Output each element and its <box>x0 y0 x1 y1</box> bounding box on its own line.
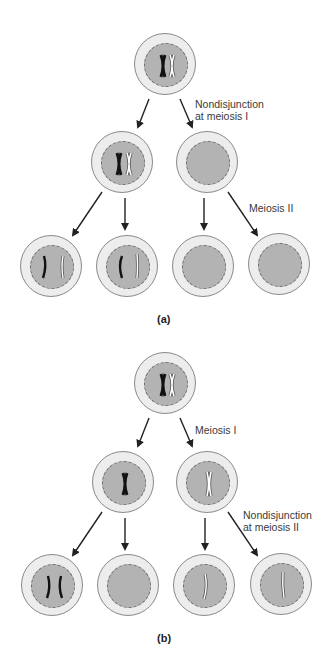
arrow-a-mid1-left <box>73 192 102 235</box>
nucleus <box>144 43 188 87</box>
single-chromosome-icon <box>261 564 305 608</box>
annotation-meiosis-2: Meiosis II <box>249 202 293 214</box>
nucleus <box>183 564 227 608</box>
arrow-b-parent-right <box>180 418 192 446</box>
cell-a-meiosis1-right-empty <box>176 131 238 193</box>
cell-b-parent <box>134 352 196 414</box>
annotation-at-meiosis-1: at meiosis I <box>195 110 248 122</box>
nucleus <box>186 461 230 505</box>
cell-b-gamete-3 <box>173 554 235 616</box>
cell-a-meiosis1-left <box>91 131 153 193</box>
nucleus <box>144 362 188 406</box>
arrow-a-parent-right <box>180 99 192 127</box>
arrow-b-parent-left <box>138 418 149 446</box>
cell-a-gamete-1 <box>20 235 82 297</box>
cell-a-parent <box>134 33 196 95</box>
annotation-nondisjunction-1: Nondisjunction <box>195 98 264 110</box>
panel-label-b: (b) <box>157 632 171 644</box>
single-chromosomes-icon <box>31 246 75 290</box>
arrow-b-mid1-left <box>73 512 102 555</box>
single-chromosome-icon <box>184 565 228 609</box>
nucleus <box>186 141 230 185</box>
nucleus <box>30 245 74 289</box>
nucleus <box>106 245 150 289</box>
single-chromosomes-icon <box>107 246 151 290</box>
chromosome-pair-icon <box>145 363 189 407</box>
arrow-a-parent-left <box>138 99 149 127</box>
nucleus <box>107 564 151 608</box>
nucleus <box>258 243 302 287</box>
cell-a-gamete-2 <box>96 235 158 297</box>
nucleus <box>31 564 75 608</box>
cell-b-gamete-2-empty <box>97 554 159 616</box>
cell-b-gamete-4 <box>250 553 312 615</box>
chromosome-pair-icon <box>102 142 146 186</box>
cell-a-gamete-4-empty <box>248 233 310 295</box>
cell-b-meiosis1-right <box>176 451 238 513</box>
annotation-nondisjunction-2: Nondisjunction <box>243 509 312 521</box>
nucleus <box>182 245 226 289</box>
annotation-at-meiosis-2: at meiosis II <box>243 521 299 533</box>
single-chromosomes-icon <box>32 565 76 609</box>
panel-label-a: (a) <box>157 313 170 325</box>
cell-b-meiosis1-left <box>92 451 154 513</box>
cell-b-gamete-1 <box>21 554 83 616</box>
nucleus <box>102 461 146 505</box>
chromosome-pair-icon <box>145 44 189 88</box>
nondisjunction-diagram: Nondisjunction at meiosis I Meiosis II <box>0 0 333 668</box>
replicated-chromosome-icon <box>103 462 147 506</box>
cell-a-gamete-3-empty <box>172 235 234 297</box>
nucleus <box>260 563 304 607</box>
nucleus <box>101 141 145 185</box>
replicated-chromosome-icon <box>187 462 231 506</box>
annotation-meiosis-1: Meiosis I <box>195 424 236 436</box>
